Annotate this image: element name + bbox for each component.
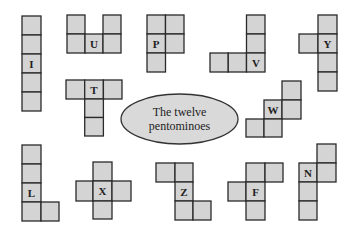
- piece-i: I: [22, 16, 41, 111]
- piece-l: L: [22, 145, 59, 221]
- piece-w: W: [246, 81, 301, 137]
- piece-v: V: [210, 15, 265, 72]
- title-line-1: The twelve: [153, 105, 207, 119]
- piece-label-t: T: [90, 84, 98, 96]
- piece-label-p: P: [153, 38, 160, 50]
- piece-x: X: [76, 162, 131, 219]
- piece-p: P: [147, 15, 184, 72]
- piece-label-l: L: [28, 187, 35, 199]
- piece-f: F: [228, 163, 283, 220]
- piece-label-w: W: [268, 104, 279, 116]
- piece-label-u: U: [90, 38, 98, 50]
- piece-u: U: [67, 15, 121, 53]
- title-line-2: pentominoes: [149, 119, 211, 133]
- piece-label-n: N: [304, 167, 312, 179]
- piece-t: T: [66, 80, 122, 136]
- pentomino-diagram: I U P V Y: [0, 0, 356, 234]
- piece-label-z: Z: [180, 186, 187, 198]
- title-ellipse: The twelve pentominoes: [121, 94, 238, 144]
- piece-label-x: X: [99, 185, 107, 197]
- piece-z: Z: [156, 163, 211, 220]
- piece-label-f: F: [252, 186, 259, 198]
- piece-y: Y: [299, 15, 337, 91]
- piece-label-y: Y: [324, 38, 332, 50]
- piece-label-v: V: [252, 57, 260, 69]
- piece-n: N: [299, 144, 336, 220]
- piece-label-i: I: [29, 58, 33, 70]
